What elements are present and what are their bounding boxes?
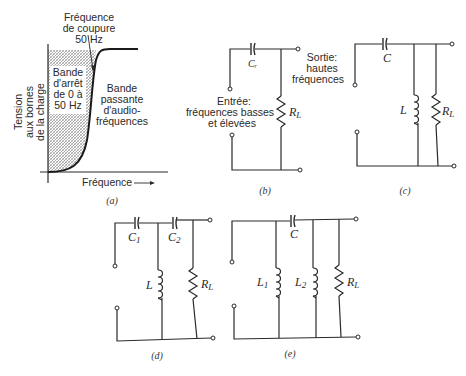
caption-c: (c) (399, 185, 411, 197)
svg-text:50 Hz: 50 Hz (75, 33, 102, 45)
figure-a-pass-band-label: Bande passante d'audio- fréquences (96, 82, 148, 127)
figure-b-output-label: Sortie: hautes fréquences (292, 51, 344, 85)
resistor-icon (335, 265, 343, 296)
capacitor1-label-d: C1 (128, 230, 141, 245)
resistor-label-b: RL (288, 105, 301, 120)
svg-text:et élevées: et élevées (208, 117, 256, 129)
svg-text:Fréquence: Fréquence (82, 176, 132, 188)
figure-a-stop-band-label: Bande d'arrêt de 0 à 50 Hz (50, 66, 86, 114)
figure-a-y-axis-label: Tension aux bornes de la charge (12, 83, 46, 141)
output-terminal-top (208, 218, 212, 222)
inductor1-label-e: L1 (256, 275, 268, 290)
svg-text:fréquences: fréquences (96, 115, 148, 127)
caption-a: (a) (106, 195, 118, 207)
figure-b-input-label: Entrée: fréquences basses et élevées (186, 95, 274, 129)
capacitor-icon (383, 38, 387, 50)
output-terminal-top (450, 42, 454, 46)
svg-text:fréquences: fréquences (292, 73, 344, 85)
resistor-icon (189, 268, 197, 299)
output-terminal-bottom (211, 336, 215, 340)
input-terminal-top (230, 260, 234, 264)
input-terminal-bottom (355, 130, 359, 134)
output-terminal-top (354, 217, 358, 221)
input-terminal-bottom (230, 133, 234, 137)
inductor-icon (313, 268, 318, 296)
output-terminal-bottom (452, 164, 456, 168)
capacitor2-label-d: C2 (168, 230, 181, 245)
inductor-icon (414, 95, 419, 123)
resistor-icon (432, 94, 440, 125)
output-terminal-bottom (298, 168, 302, 172)
resistor-label-c: RL (441, 104, 454, 119)
caption-d: (d) (151, 350, 163, 362)
input-terminal-bottom (232, 304, 236, 308)
capacitor-icon (135, 217, 139, 229)
input-terminal-top (228, 87, 232, 91)
input-terminal-bottom (115, 306, 119, 310)
capacitor-icon (291, 215, 295, 227)
capacitor-label-b: Cᵣ (248, 58, 258, 69)
caption-b: (b) (259, 185, 271, 197)
inductor-label-c: L (399, 103, 407, 117)
filter-circuits-figure: Fréquence de coupure 50 Hz Tension aux b… (0, 0, 466, 376)
resistor-label-d: RL (200, 277, 213, 292)
inductor-label-d: L (145, 278, 153, 292)
resistor-icon (277, 96, 285, 127)
figure-a-x-axis-label: Fréquence (82, 176, 155, 188)
input-terminal-top (113, 264, 117, 268)
inductor-icon (276, 268, 281, 296)
output-terminal-bottom (356, 335, 360, 339)
figure-a-title: Fréquence de coupure 50 Hz (63, 11, 116, 45)
caption-e: (e) (284, 348, 296, 360)
inductor2-label-e: L2 (294, 275, 307, 290)
svg-text:de la charge: de la charge (34, 83, 46, 141)
resistor-label-e: RL (346, 275, 359, 290)
capacitor-icon (251, 43, 255, 55)
inductor-icon (158, 270, 163, 298)
svg-text:50 Hz: 50 Hz (54, 99, 81, 111)
input-terminal-top (353, 83, 357, 87)
capacitor-label-c: C (383, 51, 392, 65)
capacitor-icon (173, 217, 177, 229)
output-terminal-top (296, 47, 300, 51)
capacitor-label-e: C (290, 227, 299, 241)
